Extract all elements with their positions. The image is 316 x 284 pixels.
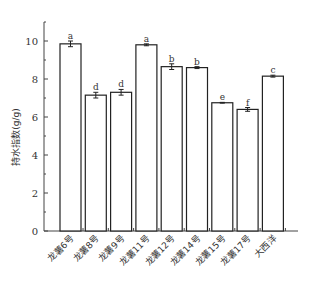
bar (237, 109, 258, 231)
significance-letter: c (270, 65, 275, 75)
bar (187, 68, 208, 231)
y-tick-label: 4 (32, 150, 38, 161)
bar (262, 76, 283, 231)
significance-letter: a (144, 34, 150, 44)
category-label: 龙薯6号 (45, 233, 76, 264)
bar (136, 45, 157, 231)
significance-letter: a (68, 31, 74, 41)
category-label: 大西洋 (251, 233, 278, 260)
bar (161, 67, 182, 231)
significance-letter: d (118, 79, 124, 89)
bar (85, 95, 106, 231)
significance-letter: b (194, 57, 200, 67)
y-axis-label: 持水指数(g/g) (10, 108, 21, 165)
y-tick-label: 10 (25, 36, 38, 47)
significance-letter: d (93, 82, 99, 92)
significance-letter: b (169, 54, 175, 64)
bar (111, 92, 132, 231)
significance-letter: f (246, 98, 250, 108)
y-tick-label: 2 (32, 188, 38, 199)
bars: addabbefc (60, 31, 283, 231)
bar (60, 44, 81, 231)
category-labels: 龙薯6号龙薯8号龙薯9号龙薯11号龙薯12号龙薯14号龙薯15号龙薯17号大西洋 (45, 233, 278, 268)
significance-letter: e (220, 92, 225, 102)
y-tick-label: 0 (32, 226, 38, 237)
bar-chart: 0246810 addabbefc 龙薯6号龙薯8号龙薯9号龙薯11号龙薯12号… (0, 0, 316, 284)
category-label: 龙薯8号 (70, 233, 101, 264)
y-tick-label: 8 (32, 74, 38, 85)
bar (212, 103, 233, 231)
y-tick-label: 6 (32, 112, 38, 123)
